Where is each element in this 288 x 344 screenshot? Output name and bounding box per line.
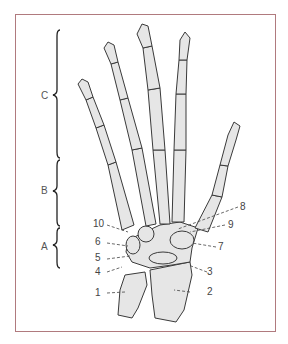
ulna-bone	[118, 272, 147, 318]
callout-3: 3	[207, 267, 213, 277]
section-label-b: B	[41, 186, 48, 196]
metacarpal-4	[132, 148, 156, 226]
radius-bone	[150, 262, 192, 322]
metacarpal-3	[153, 150, 170, 224]
callout-2: 2	[207, 287, 213, 297]
callout-8: 8	[240, 202, 246, 212]
callout-10: 10	[93, 219, 104, 229]
brace-c	[53, 30, 60, 158]
brace-b	[53, 160, 60, 226]
brace-a	[53, 228, 60, 268]
metacarpal-2	[172, 150, 186, 222]
callout-9: 9	[228, 220, 234, 230]
hand-skeleton-illustration	[0, 0, 288, 344]
callout-6: 6	[95, 237, 101, 247]
callout-1: 1	[95, 288, 101, 298]
section-label-c: C	[41, 91, 48, 101]
callout-5: 5	[95, 253, 101, 263]
callout-7: 7	[218, 242, 224, 252]
section-label-a: A	[41, 242, 48, 252]
callout-4: 4	[95, 267, 101, 277]
metacarpal-5	[108, 162, 134, 230]
